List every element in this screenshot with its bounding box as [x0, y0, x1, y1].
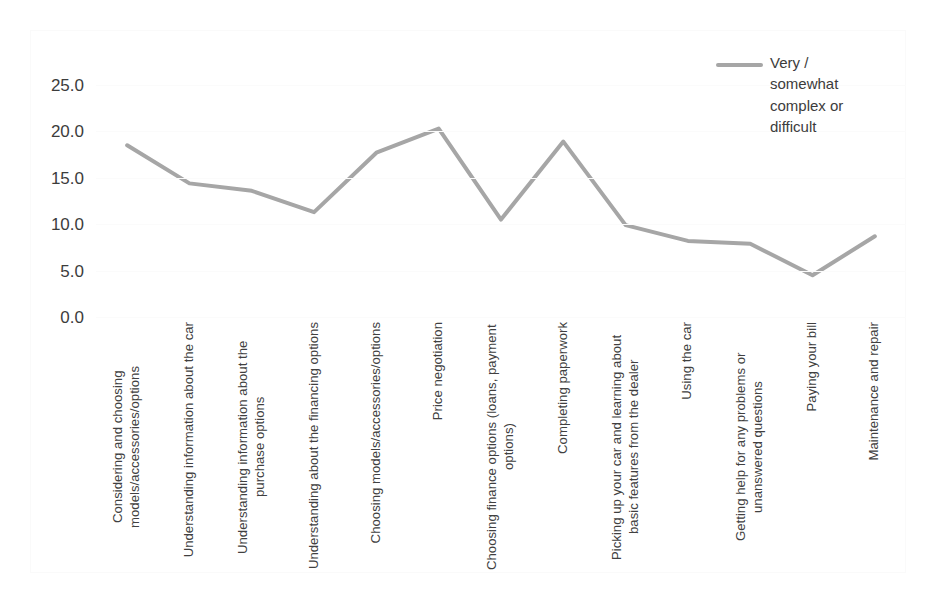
x-axis-category-label: Maintenance and repair [844, 322, 906, 572]
chart-container: 25.020.015.010.05.00.0 Considering and c… [0, 0, 932, 601]
x-axis-category-text: Price negotiation [430, 322, 447, 420]
x-axis-category-text: Completing paperwork [555, 322, 572, 454]
gridline [96, 224, 906, 225]
x-axis-category-text: Choosing models/accessories/options [368, 322, 385, 543]
x-axis-category-text: Paying your bill [804, 322, 821, 411]
x-axis-category-text: Choosing finance options (loans, payment… [484, 322, 518, 572]
y-axis-tick-label: 15.0 [24, 169, 84, 186]
x-axis-category-label: Understanding information about the car [158, 322, 220, 572]
series-line-very-somewhat-complex [127, 129, 875, 276]
x-axis-category-label: Price negotiation [408, 322, 470, 572]
x-axis-category-text: Picking up your car and learning about b… [609, 322, 643, 572]
x-axis-category-label: Considering and choosing models/accessor… [96, 322, 158, 572]
x-axis-category-text: Understanding information about the car [181, 322, 198, 557]
chart-legend: Very / somewhat complex or difficult [716, 52, 862, 137]
gridline [96, 271, 906, 272]
x-axis-category-label: Choosing models/accessories/options [345, 322, 407, 572]
x-axis-category-label: Picking up your car and learning about b… [594, 322, 656, 572]
x-axis-category-label: Getting help for any problems or unanswe… [719, 322, 781, 572]
x-axis-category-text: Maintenance and repair [866, 322, 883, 461]
x-axis-category-label: Understanding information about the purc… [221, 322, 283, 572]
y-axis-tick-label: 10.0 [24, 216, 84, 233]
x-axis-category-text: Using the car [679, 322, 696, 400]
y-axis-tick-label: 5.0 [24, 262, 84, 279]
y-axis-tick-label: 0.0 [24, 309, 84, 326]
x-axis-category-label: Using the car [657, 322, 719, 572]
y-axis-tick-label: 25.0 [24, 77, 84, 94]
legend-entry-label: Very / somewhat complex or difficult [770, 52, 862, 137]
legend-line-swatch [716, 63, 763, 67]
gridline [96, 317, 906, 318]
y-axis: 25.020.015.010.05.00.0 [22, 85, 84, 317]
x-axis-category-text: Considering and choosing models/accessor… [110, 322, 144, 572]
x-axis-category-text: Understanding about the financing option… [306, 322, 323, 569]
x-axis: Considering and choosing models/accessor… [96, 322, 906, 572]
y-axis-tick-label: 20.0 [24, 123, 84, 140]
x-axis-category-label: Completing paperwork [532, 322, 594, 572]
x-axis-category-label: Choosing finance options (loans, payment… [470, 322, 532, 572]
x-axis-category-text: Getting help for any problems or unanswe… [733, 322, 767, 572]
x-axis-category-label: Paying your bill [781, 322, 843, 572]
x-axis-category-text: Understanding information about the purc… [235, 322, 269, 572]
gridline [96, 178, 906, 179]
x-axis-category-label: Understanding about the financing option… [283, 322, 345, 572]
